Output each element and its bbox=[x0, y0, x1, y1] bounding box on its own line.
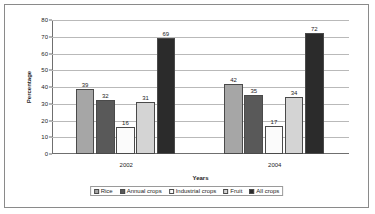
bar-value-label: 69 bbox=[162, 31, 169, 37]
bar-annual-crops-2004[interactable]: 35 bbox=[244, 95, 263, 154]
x-tick-label: 2002 bbox=[120, 162, 133, 168]
bar-value-label: 72 bbox=[311, 26, 318, 32]
y-tick-label: 80 bbox=[41, 17, 48, 23]
y-axis-title: Percentage bbox=[26, 71, 32, 103]
bar-value-label: 16 bbox=[122, 120, 129, 126]
bar-rice-2004[interactable]: 42 bbox=[224, 84, 243, 154]
legend-item-industrial-crops[interactable]: Industrial crops bbox=[169, 188, 217, 194]
bar-value-label: 32 bbox=[102, 93, 109, 99]
legend-label: Industrial crops bbox=[176, 188, 217, 194]
y-tick-label: 40 bbox=[41, 84, 48, 90]
legend-item-fruit[interactable]: Fruit bbox=[223, 188, 242, 194]
legend-swatch-icon bbox=[223, 189, 228, 194]
bar-fruit-2002[interactable]: 31 bbox=[136, 102, 155, 154]
bar-rice-2002[interactable]: 39 bbox=[76, 89, 95, 154]
bar-annual-crops-2002[interactable]: 32 bbox=[96, 100, 115, 154]
legend-label: All crops bbox=[256, 188, 279, 194]
chart-frame: Percentage 01020304050607080 39321631692… bbox=[4, 4, 369, 208]
bar-value-label: 31 bbox=[142, 95, 149, 101]
x-tick-label: 2004 bbox=[268, 162, 281, 168]
legend-label: Fruit bbox=[230, 188, 242, 194]
bar-value-label: 34 bbox=[291, 90, 298, 96]
legend-swatch-icon bbox=[120, 189, 125, 194]
x-axis-title: Years bbox=[52, 175, 349, 181]
legend-label: Rice bbox=[101, 188, 113, 194]
bar-all-crops-2004[interactable]: 72 bbox=[305, 33, 324, 154]
y-tick-label: 30 bbox=[41, 101, 48, 107]
y-tick-label: 70 bbox=[41, 34, 48, 40]
y-tick-label: 60 bbox=[41, 51, 48, 57]
bar-industrial-crops-2002[interactable]: 16 bbox=[116, 127, 135, 154]
bar-value-label: 39 bbox=[82, 82, 89, 88]
legend-swatch-icon bbox=[94, 189, 99, 194]
plot-area: 01020304050607080 3932163169200242351734… bbox=[52, 20, 349, 154]
bar-all-crops-2002[interactable]: 69 bbox=[157, 38, 176, 154]
y-tick-label: 50 bbox=[41, 67, 48, 73]
bar-fruit-2004[interactable]: 34 bbox=[285, 97, 304, 154]
bar-value-label: 42 bbox=[230, 77, 237, 83]
legend-label: Annual crops bbox=[127, 188, 162, 194]
legend-swatch-icon bbox=[249, 189, 254, 194]
bar-group-2004: 42351734722004 bbox=[201, 20, 350, 154]
bar-group-2002: 39321631692002 bbox=[52, 20, 201, 154]
chart-legend: RiceAnnual cropsIndustrial cropsFruitAll… bbox=[90, 186, 284, 196]
y-tick-label: 20 bbox=[41, 118, 48, 124]
legend-item-all-crops[interactable]: All crops bbox=[249, 188, 279, 194]
bar-industrial-crops-2004[interactable]: 17 bbox=[265, 126, 284, 154]
bar-value-label: 35 bbox=[250, 88, 257, 94]
y-tick-label: 10 bbox=[41, 134, 48, 140]
legend-item-rice[interactable]: Rice bbox=[94, 188, 113, 194]
legend-item-annual-crops[interactable]: Annual crops bbox=[120, 188, 162, 194]
bar-value-label: 17 bbox=[271, 119, 278, 125]
y-tick-label: 0 bbox=[45, 151, 48, 157]
legend-swatch-icon bbox=[169, 189, 174, 194]
